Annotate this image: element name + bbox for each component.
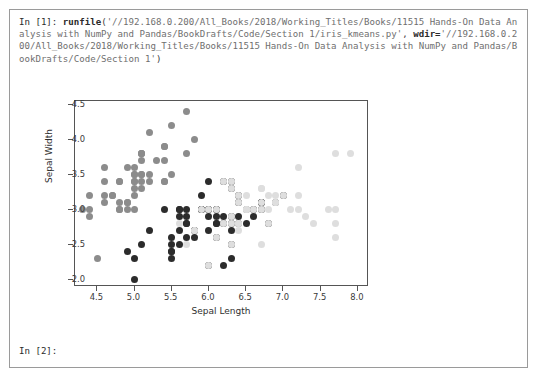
scatter-point [258, 241, 265, 248]
scatter-point [220, 178, 227, 185]
scatter-point [302, 213, 309, 220]
scatter-point [131, 206, 138, 213]
y-axis-tick-label: 2.0 [45, 274, 85, 284]
scatter-point [272, 192, 279, 199]
x-axis-tick-label: 5.0 [116, 292, 152, 302]
scatter-point [243, 192, 250, 199]
argument-comma: , [402, 29, 407, 39]
scatter-point [183, 241, 190, 248]
scatter-point [168, 171, 175, 178]
scatter-point [205, 227, 212, 234]
scatter-point [146, 171, 153, 178]
scatter-point [124, 199, 131, 206]
scatter-point [250, 213, 257, 220]
scatter-point [198, 206, 205, 213]
scatter-point [101, 199, 108, 206]
scatter-point [205, 213, 212, 220]
x-axis-tick-label: 8.0 [339, 292, 375, 302]
scatter-point [138, 157, 145, 164]
scatter-point [235, 213, 242, 220]
runfile-function-name: runfile [63, 17, 101, 27]
x-axis-tick [282, 286, 283, 291]
scatter-point [228, 241, 235, 248]
scatter-point [235, 227, 242, 234]
y-axis-tick-label: 3.0 [45, 204, 85, 214]
scatter-point [272, 199, 279, 206]
scatter-point [183, 108, 190, 115]
x-axis-tick [171, 286, 172, 291]
scatter-point [191, 136, 198, 143]
scatter-point [228, 220, 235, 227]
ipython-console-window[interactable]: In [1]: runfile('//192.168.0.200/All_Boo… [9, 9, 528, 368]
y-axis-tick-label: 4.5 [45, 99, 85, 109]
scatter-point [332, 220, 339, 227]
scatter-point [332, 234, 339, 241]
scatter-point [228, 227, 235, 234]
scatter-point [295, 164, 302, 171]
scatter-plot-area [74, 100, 368, 286]
scatter-point [124, 164, 131, 171]
scatter-point [124, 248, 131, 255]
scatter-point [101, 192, 108, 199]
scatter-point [243, 206, 250, 213]
console-output-block: In [1]: runfile('//192.168.0.200/All_Boo… [19, 16, 519, 65]
scatter-point [183, 150, 190, 157]
x-axis-tick [245, 286, 246, 291]
scatter-point [161, 143, 168, 150]
scatter-point [109, 192, 116, 199]
scatter-point [86, 192, 93, 199]
scatter-point [220, 262, 227, 269]
x-axis-tick [320, 286, 321, 291]
scatter-point [228, 185, 235, 192]
scatter-point [220, 213, 227, 220]
scatter-point [131, 255, 138, 262]
x-axis-title: Sepal Length [74, 306, 368, 316]
scatter-point [258, 206, 265, 213]
scatter-point [176, 213, 183, 220]
scatter-point [131, 171, 138, 178]
scatter-point [168, 241, 175, 248]
scatter-point [220, 220, 227, 227]
scatter-point [205, 178, 212, 185]
x-axis-tick-label: 6.0 [190, 292, 226, 302]
scatter-point [213, 206, 220, 213]
scatter-point [213, 234, 220, 241]
scatter-point [168, 248, 175, 255]
scatter-point [86, 206, 93, 213]
scatter-point [176, 220, 183, 227]
scatter-point [101, 178, 108, 185]
close-paren: ) [156, 54, 161, 64]
scatter-point [131, 192, 138, 199]
scatter-point [116, 199, 123, 206]
scatter-point [146, 227, 153, 234]
scatter-point [213, 213, 220, 220]
x-axis-tick-label: 4.5 [78, 292, 114, 302]
scatter-point [153, 157, 160, 164]
x-axis-tick-label: 5.5 [153, 292, 189, 302]
scatter-point [228, 178, 235, 185]
y-axis-title: Sepal Width [44, 101, 54, 211]
scatter-point [205, 206, 212, 213]
scatter-point [325, 206, 332, 213]
scatter-point [258, 185, 265, 192]
scatter-point [138, 185, 145, 192]
scatter-point [183, 220, 190, 227]
scatter-point [161, 206, 168, 213]
scatter-point [131, 178, 138, 185]
scatter-point [176, 206, 183, 213]
scatter-point [191, 234, 198, 241]
input-prompt-2: In [2]: [19, 346, 57, 356]
scatter-point [86, 213, 93, 220]
scatter-point [146, 129, 153, 136]
scatter-point [138, 178, 145, 185]
scatter-point [138, 150, 145, 157]
x-axis-tick [208, 286, 209, 291]
scatter-point [347, 150, 354, 157]
x-axis-tick [134, 286, 135, 291]
scatter-point [168, 234, 175, 241]
scatter-point [205, 262, 212, 269]
scatter-point [146, 178, 153, 185]
scatter-point [131, 276, 138, 283]
scatter-point [183, 234, 190, 241]
scatter-point [332, 150, 339, 157]
